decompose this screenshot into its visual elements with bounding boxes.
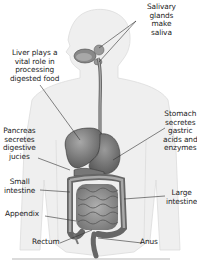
label-large-intestine: Large intestine <box>166 189 197 206</box>
label-anus: Anus <box>140 238 158 247</box>
rectum <box>93 234 96 256</box>
label-appendix: Appendix <box>5 210 39 219</box>
label-liver: Liver plays a vital role in processing d… <box>10 49 59 83</box>
label-stomach: Stomach secretes gastric acids and enzym… <box>163 110 197 153</box>
small-intestine <box>76 184 118 230</box>
label-salivary-glands: Salivary glands make saliva <box>147 3 176 37</box>
label-pancreas: Pancreas secretes digestive jucies <box>3 127 36 161</box>
label-rectum: Rectum <box>32 238 60 247</box>
label-small-intestine: Small intestine <box>4 178 35 195</box>
digestive-system-diagram: Salivary glands make saliva Liver plays … <box>0 0 197 263</box>
